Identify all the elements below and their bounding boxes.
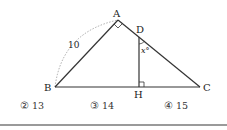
point-label-c: C [203,82,211,93]
option-marker: ④ [164,100,173,111]
point-label-h: H [134,89,143,100]
right-angle-mark-h [139,82,144,87]
option-value: 14 [102,100,114,111]
option-3: ③ 14 [90,100,114,111]
side-length-label: 10 [68,40,80,50]
point-label-a: A [112,8,121,19]
option-value: 15 [176,100,188,111]
side-ac [118,20,200,87]
option-4: ④ 15 [164,100,188,111]
option-value: 13 [32,100,44,111]
angle-label: x° [141,46,150,55]
side-ab [55,20,118,87]
right-angle-mark-a [114,24,122,28]
option-marker: ② [20,100,29,111]
point-label-b: B [44,82,51,93]
option-marker: ③ [90,100,99,111]
divider [0,124,227,126]
angle-arc-d [139,41,145,44]
option-2: ② 13 [20,100,44,111]
point-label-d: D [136,24,144,35]
